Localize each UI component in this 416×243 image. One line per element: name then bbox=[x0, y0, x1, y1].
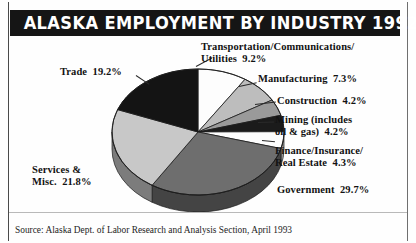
source-note: Source: Alaska Dept. of Labor Research a… bbox=[15, 225, 292, 235]
leader-line-manufacturing bbox=[239, 82, 257, 87]
slice-label-manufacturing: Manufacturing 7.3% bbox=[258, 73, 357, 85]
frame-right-rule bbox=[407, 2, 408, 241]
slice-label-transportation: Transportation/Communications/ Utilities… bbox=[201, 41, 354, 64]
slice-label-mining: Mining (includes oil & gas) 4.2% bbox=[275, 114, 352, 137]
pie-slice-7 bbox=[118, 69, 198, 132]
slice-label-construction: Construction 4.2% bbox=[277, 95, 367, 107]
frame-left-rule bbox=[8, 2, 9, 241]
slice-label-finance: Finance/Insurance/ Real Estate 4.3% bbox=[275, 145, 363, 168]
pie-slice-3 bbox=[198, 115, 284, 132]
pie-svg bbox=[0, 0, 416, 243]
pie-outline bbox=[112, 69, 284, 195]
pie-slice-side bbox=[112, 132, 152, 202]
leader-line-finance bbox=[262, 140, 275, 142]
slice-label-government: Government 29.7% bbox=[277, 184, 369, 196]
pie-slice-1 bbox=[198, 79, 272, 132]
pie-slice-0 bbox=[198, 69, 245, 132]
pie-slice-5 bbox=[152, 132, 281, 195]
pie-slice-6 bbox=[112, 110, 198, 186]
pie-slice-2 bbox=[198, 100, 281, 132]
page-title: ALASKA EMPLOYMENT BY INDUSTRY 1992 bbox=[24, 10, 387, 36]
pie-slice-side bbox=[152, 149, 281, 212]
slice-label-services: Services & Misc. 21.8% bbox=[32, 164, 92, 187]
footer-divider bbox=[9, 212, 407, 213]
chart-page: ALASKA EMPLOYMENT BY INDUSTRY 1992 Trans… bbox=[0, 0, 416, 243]
slice-label-trade: Trade 19.2% bbox=[60, 66, 122, 78]
pie-chart bbox=[0, 0, 416, 243]
leader-line-mining bbox=[258, 121, 274, 123]
leader-line-construction bbox=[255, 101, 276, 105]
leader-line-trade bbox=[136, 75, 150, 85]
